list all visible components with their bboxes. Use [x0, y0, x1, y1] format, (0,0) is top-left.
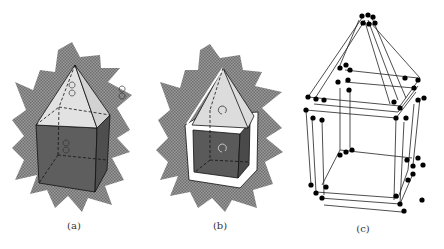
figure-canvas	[0, 0, 444, 249]
panel-a	[12, 42, 132, 212]
caption-b: (b)	[213, 220, 227, 231]
caption-c: (c)	[356, 223, 369, 234]
box-front-face	[36, 125, 97, 192]
graph-vertices	[303, 12, 426, 213]
caption-a: (a)	[67, 220, 81, 231]
panel-b	[156, 44, 283, 212]
panel-c	[303, 12, 426, 213]
box-front-face	[193, 130, 240, 178]
